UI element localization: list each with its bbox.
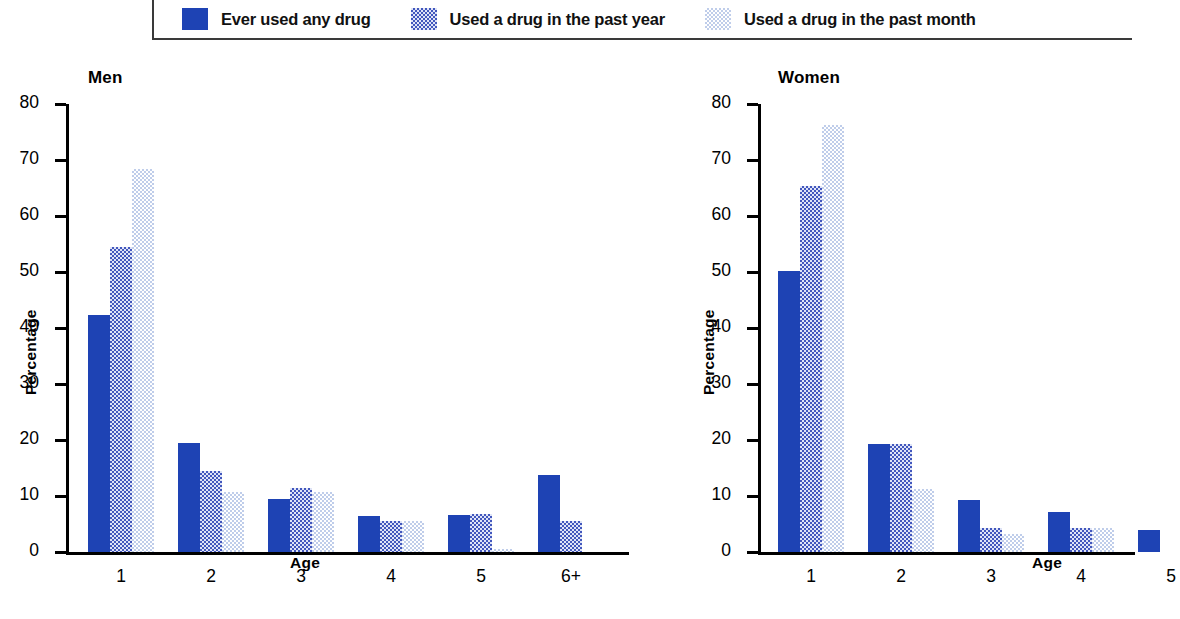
legend-label-past-year: Used a drug in the past year bbox=[450, 10, 665, 29]
bar-women-1-series1 bbox=[778, 271, 800, 552]
bar-men-3-series3 bbox=[312, 492, 334, 552]
y-tick-men-80: 80 bbox=[55, 103, 66, 106]
bar-men-4-series1 bbox=[358, 516, 380, 552]
y-tick-label-women-0: 0 bbox=[721, 542, 731, 560]
bar-group-women-1: 1 bbox=[778, 104, 844, 552]
legend-item-past-month: Used a drug in the past month bbox=[705, 0, 976, 38]
x-tick-label-men-6plus: 6+ bbox=[538, 568, 604, 586]
y-tick-men-70: 70 bbox=[55, 159, 66, 162]
y-tick-women-0: 0 bbox=[747, 551, 758, 554]
x-tick-label-women-4: 4 bbox=[1048, 568, 1114, 586]
x-tick-label-women-1: 1 bbox=[778, 568, 844, 586]
y-tick-women-30: 30 bbox=[747, 383, 758, 386]
legend-item-ever-used: Ever used any drug bbox=[182, 0, 371, 38]
y-tick-label-women-40: 40 bbox=[712, 318, 731, 336]
y-tick-label-women-50: 50 bbox=[712, 262, 731, 280]
bar-women-3-series3 bbox=[1002, 534, 1024, 552]
x-tick-label-women-3: 3 bbox=[958, 568, 1024, 586]
x-tick-label-men-2: 2 bbox=[178, 568, 244, 586]
y-tick-women-60: 60 bbox=[747, 215, 758, 218]
y-tick-men-50: 50 bbox=[55, 271, 66, 274]
bar-group-women-4: 4 bbox=[1048, 104, 1114, 552]
bar-men-6plus-series1 bbox=[538, 475, 560, 552]
bar-group-women-2: 2 bbox=[868, 104, 934, 552]
y-tick-label-women-30: 30 bbox=[712, 374, 731, 392]
panel-title-women: Women bbox=[778, 68, 840, 88]
bar-group-men-4: 4 bbox=[358, 104, 424, 552]
y-tick-label-men-70: 70 bbox=[20, 150, 39, 168]
x-axis-line-women bbox=[758, 552, 1135, 555]
bar-group-men-6plus: 6+ bbox=[538, 104, 604, 552]
y-tick-men-30: 30 bbox=[55, 383, 66, 386]
bar-women-5-series1 bbox=[1138, 530, 1160, 552]
bar-men-1-series3 bbox=[132, 169, 154, 552]
bar-women-2-series2 bbox=[890, 444, 912, 552]
bar-men-4-series2 bbox=[380, 521, 402, 552]
bar-men-5-series2 bbox=[470, 514, 492, 552]
bar-men-5-series1 bbox=[448, 515, 470, 552]
x-tick-label-men-3: 3 bbox=[268, 568, 334, 586]
y-axis-line-women bbox=[758, 104, 761, 552]
bar-women-4-series3 bbox=[1092, 528, 1114, 552]
y-tick-label-women-60: 60 bbox=[712, 206, 731, 224]
legend-item-past-year: Used a drug in the past year bbox=[411, 0, 665, 38]
y-tick-label-men-0: 0 bbox=[29, 542, 39, 560]
bar-men-2-series2 bbox=[200, 471, 222, 552]
bar-men-2-series1 bbox=[178, 443, 200, 552]
y-tick-men-20: 20 bbox=[55, 439, 66, 442]
bar-men-5-series3 bbox=[492, 549, 514, 552]
bar-women-2-series1 bbox=[868, 444, 890, 552]
y-tick-men-40: 40 bbox=[55, 327, 66, 330]
bar-men-3-series2 bbox=[290, 488, 312, 552]
bar-men-6plus-series2 bbox=[560, 521, 582, 552]
y-tick-label-women-10: 10 bbox=[712, 486, 731, 504]
y-tick-label-men-50: 50 bbox=[20, 262, 39, 280]
chart-legend: Ever used any drug Used a drug in the pa… bbox=[152, 0, 1132, 40]
x-tick-label-men-5: 5 bbox=[448, 568, 514, 586]
y-tick-label-men-60: 60 bbox=[20, 206, 39, 224]
y-tick-women-40: 40 bbox=[747, 327, 758, 330]
y-tick-women-50: 50 bbox=[747, 271, 758, 274]
x-tick-label-women-2: 2 bbox=[868, 568, 934, 586]
plot-area-men: 01020304050607080 123456+ bbox=[66, 104, 626, 552]
bar-women-1-series3 bbox=[822, 125, 844, 552]
y-tick-men-60: 60 bbox=[55, 215, 66, 218]
bar-group-men-2: 2 bbox=[178, 104, 244, 552]
legend-swatch-past-month bbox=[705, 8, 731, 30]
panel-title-men: Men bbox=[88, 68, 123, 88]
x-tick-label-men-1: 1 bbox=[88, 568, 154, 586]
y-tick-label-men-10: 10 bbox=[20, 486, 39, 504]
bar-women-4-series2 bbox=[1070, 528, 1092, 552]
bar-men-4-series3 bbox=[402, 521, 424, 552]
bar-women-3-series1 bbox=[958, 500, 980, 552]
y-tick-women-70: 70 bbox=[747, 159, 758, 162]
bar-group-men-3: 3 bbox=[268, 104, 334, 552]
bar-women-2-series3 bbox=[912, 489, 934, 552]
bar-group-men-1: 1 bbox=[88, 104, 154, 552]
y-axis-line-men bbox=[66, 104, 69, 552]
bar-group-women-3: 3 bbox=[958, 104, 1024, 552]
bar-group-women-5: 5 bbox=[1138, 104, 1180, 552]
y-tick-label-men-20: 20 bbox=[20, 430, 39, 448]
y-tick-label-women-80: 80 bbox=[712, 94, 731, 112]
y-tick-label-men-30: 30 bbox=[20, 374, 39, 392]
y-tick-women-10: 10 bbox=[747, 495, 758, 498]
bar-women-4-series1 bbox=[1048, 512, 1070, 552]
x-tick-label-men-4: 4 bbox=[358, 568, 424, 586]
bar-men-1-series2 bbox=[110, 247, 132, 552]
bar-men-1-series1 bbox=[88, 315, 110, 552]
y-tick-men-0: 0 bbox=[55, 551, 66, 554]
legend-swatch-past-year bbox=[411, 8, 437, 30]
bar-group-men-5: 5 bbox=[448, 104, 514, 552]
x-tick-label-women-5: 5 bbox=[1138, 568, 1180, 586]
y-tick-women-80: 80 bbox=[747, 103, 758, 106]
y-tick-label-women-20: 20 bbox=[712, 430, 731, 448]
legend-swatch-ever-used bbox=[182, 8, 208, 30]
y-tick-women-20: 20 bbox=[747, 439, 758, 442]
bar-men-2-series3 bbox=[222, 492, 244, 552]
plot-area-women: 01020304050607080 12345 bbox=[758, 104, 1132, 552]
y-tick-men-10: 10 bbox=[55, 495, 66, 498]
bar-women-1-series2 bbox=[800, 186, 822, 552]
y-tick-label-men-80: 80 bbox=[20, 94, 39, 112]
legend-label-past-month: Used a drug in the past month bbox=[744, 10, 976, 29]
